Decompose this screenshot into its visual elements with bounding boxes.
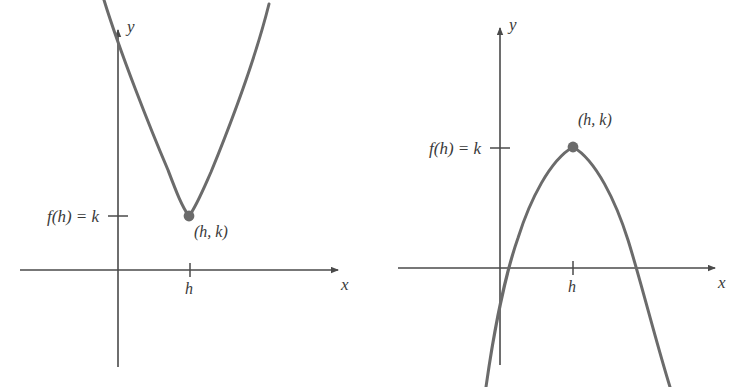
y-axis-label: y [509, 16, 517, 33]
left-chart-svg [0, 0, 370, 387]
y-axis-label: y [127, 18, 135, 35]
vertex-label: (h, k) [578, 112, 612, 128]
y-tick-label-fhk: f(h) = k [47, 208, 99, 225]
vertex-point [568, 142, 579, 153]
x-tick-label-h: h [568, 279, 576, 295]
x-tick-label-h: h [185, 281, 193, 297]
vertex-label: (h, k) [194, 224, 228, 240]
right-chart-svg [370, 0, 739, 387]
chart-panel-right: y x h f(h) = k (h, k) [370, 0, 739, 387]
vertex-point [184, 211, 195, 222]
x-axis-label: x [718, 274, 726, 291]
x-axis-label: x [341, 276, 349, 293]
y-tick-label-fhk: f(h) = k [429, 140, 481, 157]
parabola-curve-down [486, 147, 670, 387]
chart-panel-left: y x h f(h) = k (h, k) [0, 0, 370, 387]
parabola-vertex-figure: y x h f(h) = k (h, k) y [0, 0, 739, 387]
